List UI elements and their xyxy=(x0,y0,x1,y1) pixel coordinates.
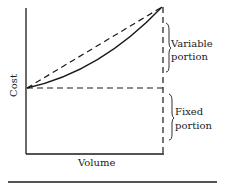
fixed-portion-label-line2: portion xyxy=(175,120,212,132)
fixed-portion-label-line1: Fixed xyxy=(175,106,203,118)
fixed-portion-brace xyxy=(169,94,174,140)
y-axis-label: Cost xyxy=(8,74,19,98)
x-axis-label: Volume xyxy=(78,157,115,169)
variable-portion-label-line1: Variable xyxy=(171,38,213,50)
variable-portion-label-line2: portion xyxy=(171,51,208,63)
linear-approx-dashed-line xyxy=(27,7,162,88)
